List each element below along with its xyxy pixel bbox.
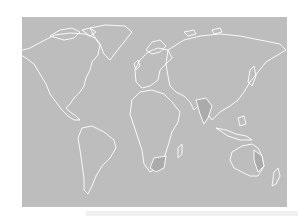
greenland bbox=[90, 25, 132, 60]
north-america bbox=[16, 33, 100, 120]
scandinavia bbox=[146, 40, 166, 54]
asia bbox=[166, 34, 286, 120]
indonesia bbox=[216, 116, 252, 140]
south-africa bbox=[150, 156, 166, 172]
south-america bbox=[78, 126, 116, 194]
arctic-islands bbox=[50, 28, 96, 40]
india bbox=[196, 98, 212, 124]
madagascar bbox=[178, 144, 182, 158]
new-zealand bbox=[272, 168, 280, 186]
caption-bar bbox=[86, 211, 298, 216]
world-map-outline bbox=[0, 0, 299, 219]
